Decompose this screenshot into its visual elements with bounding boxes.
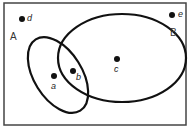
set-b-ellipse xyxy=(58,14,186,102)
set-a-label: A xyxy=(10,32,17,42)
point-b-label: b xyxy=(76,73,81,82)
point-e-label: e xyxy=(178,10,183,19)
point-d-label: d xyxy=(27,14,32,23)
point-a-label: a xyxy=(51,82,56,91)
point-c-label: c xyxy=(114,65,119,74)
point-c-dot xyxy=(114,56,120,62)
set-b-label: B xyxy=(170,28,177,38)
point-e-dot xyxy=(169,12,175,18)
set-a-ellipse xyxy=(15,27,100,124)
point-a-dot xyxy=(51,73,57,79)
point-d-dot xyxy=(19,16,25,22)
